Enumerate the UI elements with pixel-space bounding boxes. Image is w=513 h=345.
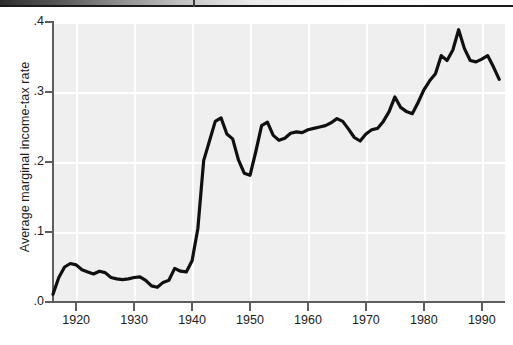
series-line-average-marginal-income-tax-rate xyxy=(53,30,499,295)
figure-container: .0.1.2.3.4 19201930194019501960197019801… xyxy=(0,0,513,345)
data-series-layer xyxy=(0,0,513,345)
